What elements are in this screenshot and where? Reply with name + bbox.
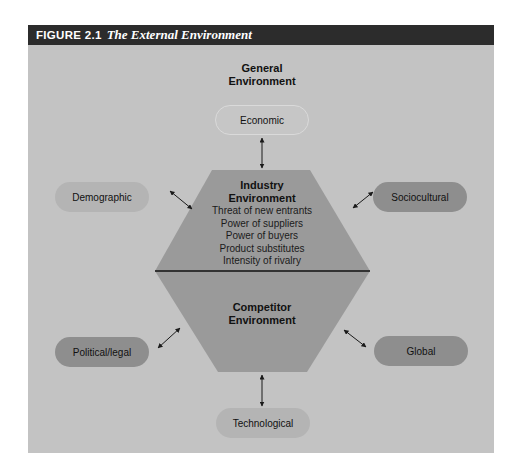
force-product-substitutes: Product substitutes [187, 243, 337, 256]
industry-environment-heading-line1: Industry [187, 179, 337, 192]
arrow-global [344, 330, 366, 347]
arrow-sociocultural [353, 192, 373, 208]
competitor-environment-heading-line1: Competitor [202, 301, 322, 314]
force-intensity-of-rivalry: Intensity of rivalry [187, 255, 337, 268]
segment-global-label: Global [407, 346, 436, 357]
segment-technological-label: Technological [233, 418, 294, 429]
arrow-political-legal [158, 328, 180, 348]
segment-technological: Technological [216, 408, 310, 438]
segment-political-legal-label: Political/legal [73, 347, 131, 358]
segment-global: Global [374, 336, 468, 366]
general-environment-heading-line1: General [212, 62, 312, 75]
industry-environment-heading-line2: Environment [187, 192, 337, 205]
general-environment-heading-line2: Environment [212, 75, 312, 88]
general-environment-heading: General Environment [212, 62, 312, 88]
segment-sociocultural: Sociocultural [373, 182, 467, 212]
segment-economic-label: Economic [240, 115, 284, 126]
industry-environment-block: Industry Environment Threat of new entra… [187, 179, 337, 268]
segment-demographic-label: Demographic [72, 192, 131, 203]
segment-political-legal: Political/legal [55, 337, 149, 367]
competitor-environment-heading: Competitor Environment [202, 301, 322, 327]
force-threat-of-new-entrants: Threat of new entrants [187, 205, 337, 218]
segment-demographic: Demographic [55, 182, 149, 212]
figure-panel: FIGURE 2.1 The External Environment Gene… [28, 25, 494, 453]
force-power-of-suppliers: Power of suppliers [187, 218, 337, 231]
segment-economic: Economic [215, 105, 309, 135]
competitor-environment-heading-line2: Environment [202, 314, 322, 327]
segment-sociocultural-label: Sociocultural [391, 192, 448, 203]
force-power-of-buyers: Power of buyers [187, 230, 337, 243]
